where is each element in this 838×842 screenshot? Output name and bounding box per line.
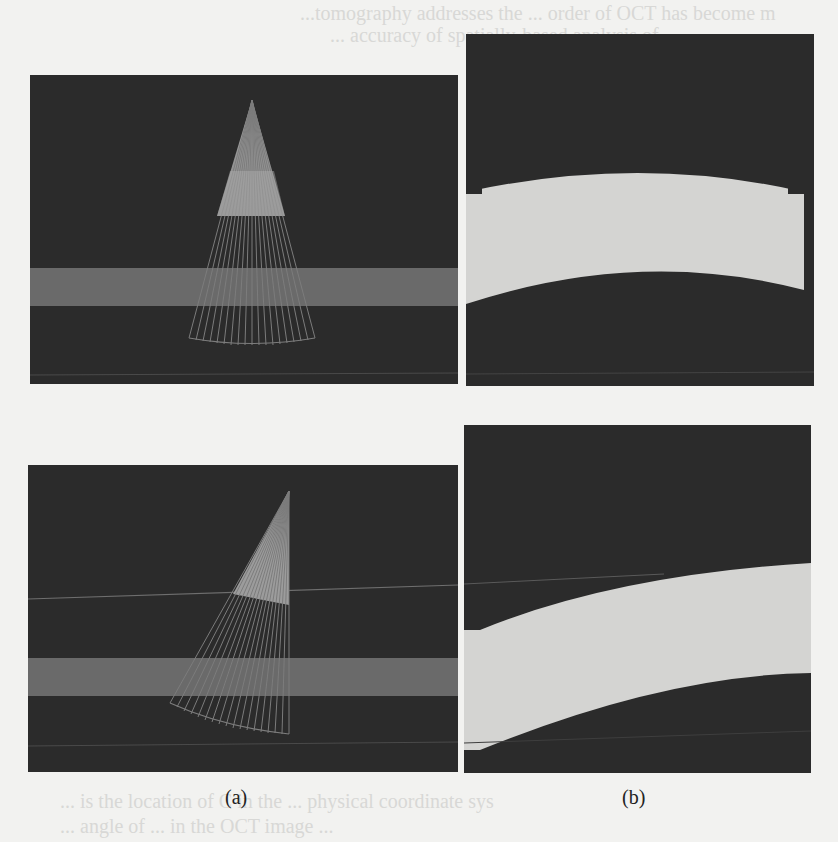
distorted-layer-skewed-image (464, 425, 811, 773)
bright-layer-band (466, 173, 804, 304)
panel-b-bottom (464, 425, 811, 773)
bright-layer-band (464, 563, 811, 750)
beam-bright-section (217, 171, 285, 216)
reference-line (464, 574, 664, 584)
bleed-text-bottom-1: ... is the location of C in the ... phys… (60, 790, 838, 813)
caption-b: (b) (622, 786, 645, 809)
panel-a-bottom (28, 465, 458, 772)
bleed-text-bottom-2: ... angle of ... in the OCT image ... (60, 815, 838, 838)
beam-fan-lines (170, 491, 289, 734)
caption-a: (a) (225, 786, 247, 809)
distorted-layer-arc-image (466, 34, 814, 386)
fan-beam-symmetric-diagram (30, 75, 458, 384)
sample-layer-band (30, 268, 458, 306)
panel-b-top (466, 34, 814, 386)
bleed-text-top-1: ...tomography addresses the ... order of… (300, 2, 838, 25)
fan-beam-tilted-diagram (28, 465, 458, 772)
beam-fan-arc (170, 703, 289, 734)
panel-a-top (30, 75, 458, 384)
beam-fan-lines (189, 100, 315, 345)
